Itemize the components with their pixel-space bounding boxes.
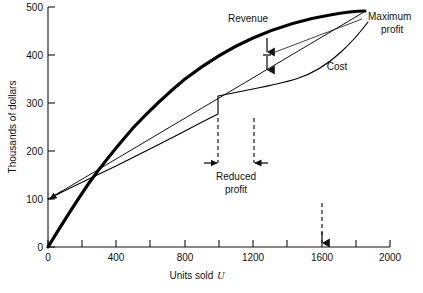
- x-tick-label-800: 800: [177, 252, 194, 263]
- y-tick-label-0: 0: [37, 242, 43, 253]
- x-tick-label-2000: 2000: [379, 252, 402, 263]
- revenue-curve: [48, 11, 365, 247]
- y-tick-label-300: 300: [26, 98, 43, 109]
- y-tick-label-500: 500: [26, 2, 43, 13]
- x-axis-title: Units soldU: [169, 270, 225, 281]
- maximum-profit-label-line1: Maximum: [368, 11, 411, 22]
- maximum-profit-label-line2: profit: [381, 24, 403, 35]
- x-axis-title-symbol: U: [217, 270, 225, 281]
- profit-secant-line: [52, 12, 364, 197]
- y-tick-label-400: 400: [26, 50, 43, 61]
- cost-label: Cost: [327, 61, 348, 72]
- x-tick-label-1200: 1200: [242, 252, 265, 263]
- x-tick-label-0: 0: [45, 252, 51, 263]
- y-axis: 500 400 300 200 100 0 Thousands of dolla…: [7, 2, 55, 253]
- y-tick-label-200: 200: [26, 146, 43, 157]
- reduced-profit-label-line1: Reduced: [216, 171, 256, 182]
- y-tick-label-100: 100: [26, 194, 43, 205]
- maximum-profit-leader: [270, 19, 362, 54]
- x-axis-title-text: Units sold: [169, 270, 213, 281]
- chart-figure: 500 400 300 200 100 0 Thousands of dolla…: [0, 0, 423, 293]
- revenue-label: Revenue: [228, 13, 268, 24]
- revenue-cost-chart: 500 400 300 200 100 0 Thousands of dolla…: [0, 0, 423, 293]
- reduced-profit-label-line2: profit: [225, 184, 247, 195]
- x-tick-label-400: 400: [108, 252, 125, 263]
- reduced-profit-span: [204, 118, 268, 163]
- x-tick-label-1600: 1600: [311, 252, 334, 263]
- y-axis-title: Thousands of dollars: [7, 81, 18, 174]
- maximum-profit-gap-arrow: [263, 38, 271, 70]
- cost-intercept-arrow: [50, 191, 62, 199]
- x-axis: 0 400 800 1200 1600 2000 Units soldU: [45, 240, 401, 281]
